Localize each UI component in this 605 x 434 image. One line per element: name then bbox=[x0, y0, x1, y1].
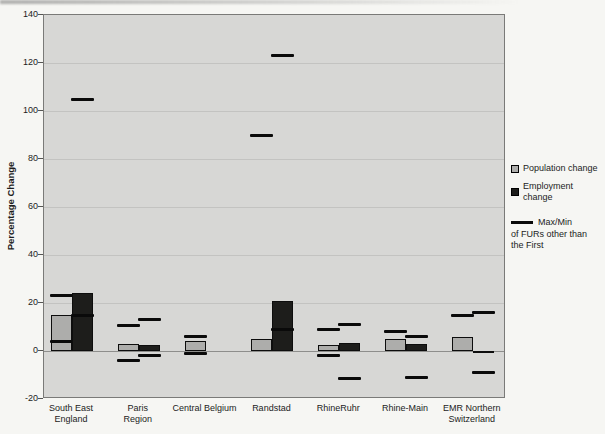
x-category-label: EMR Northern Switzerland bbox=[426, 403, 518, 425]
gridline bbox=[44, 255, 504, 256]
employment-min-marker bbox=[405, 376, 428, 379]
population-max-marker bbox=[250, 134, 273, 137]
population-bar bbox=[385, 339, 406, 351]
population-min-marker bbox=[184, 352, 207, 355]
population-max-marker bbox=[184, 335, 207, 338]
employment-min-marker bbox=[472, 371, 495, 374]
employment-bar bbox=[139, 345, 160, 351]
legend-label-population: Population change bbox=[523, 163, 598, 174]
y-tick-mark bbox=[38, 398, 43, 399]
legend-label-maxmin: Max/Min bbox=[538, 217, 572, 228]
y-tick-mark bbox=[38, 350, 43, 351]
y-tick-mark bbox=[38, 302, 43, 303]
y-tick-label: 60 bbox=[6, 201, 38, 211]
population-max-marker bbox=[117, 324, 140, 327]
population-max-marker bbox=[384, 330, 407, 333]
y-tick-label: 140 bbox=[6, 9, 38, 19]
y-tick-mark bbox=[38, 158, 43, 159]
legend-maxmin-desc-line1: of FURs other than bbox=[511, 229, 605, 240]
scan-artifact bbox=[0, 0, 520, 4]
employment-bar bbox=[72, 293, 93, 351]
employment-max-marker bbox=[138, 318, 161, 321]
employment-min-marker bbox=[271, 328, 294, 331]
y-tick-mark bbox=[38, 62, 43, 63]
y-tick-mark bbox=[38, 14, 43, 15]
legend-item-population: Population change bbox=[511, 163, 605, 174]
y-tick-mark bbox=[38, 254, 43, 255]
population-max-marker bbox=[50, 294, 73, 297]
employment-min-marker bbox=[138, 354, 161, 357]
legend-maxmin-desc-line2: the First bbox=[511, 240, 605, 251]
population-bar bbox=[452, 337, 473, 351]
population-bar bbox=[251, 339, 272, 351]
employment-max-marker bbox=[405, 335, 428, 338]
y-tick-label: 20 bbox=[6, 297, 38, 307]
population-swatch-icon bbox=[511, 165, 519, 173]
plot-area bbox=[43, 14, 505, 398]
y-tick-label: -20 bbox=[6, 393, 38, 403]
y-tick-label: 100 bbox=[6, 105, 38, 115]
chart-page: Percentage Change 140120100806040200-20S… bbox=[0, 0, 605, 434]
employment-bar bbox=[406, 344, 427, 351]
population-bar bbox=[318, 345, 339, 351]
gridline bbox=[44, 63, 504, 64]
max-min-line-icon bbox=[511, 221, 533, 224]
gridline bbox=[44, 207, 504, 208]
legend: Population change Employment change Max/… bbox=[511, 163, 605, 251]
y-tick-label: 120 bbox=[6, 57, 38, 67]
y-tick-mark bbox=[38, 206, 43, 207]
population-bar bbox=[185, 341, 206, 351]
y-tick-label: 80 bbox=[6, 153, 38, 163]
employment-bar bbox=[473, 351, 494, 353]
employment-min-marker bbox=[338, 377, 361, 380]
population-max-marker bbox=[451, 314, 474, 317]
employment-max-marker bbox=[71, 98, 94, 101]
employment-swatch-icon bbox=[511, 188, 519, 196]
employment-bar bbox=[272, 301, 293, 351]
population-bar bbox=[118, 344, 139, 351]
population-bar bbox=[51, 315, 72, 351]
employment-max-marker bbox=[338, 323, 361, 326]
population-min-marker bbox=[317, 354, 340, 357]
legend-label-employment: Employment change bbox=[523, 181, 605, 203]
gridline bbox=[44, 111, 504, 112]
y-tick-label: 40 bbox=[6, 249, 38, 259]
employment-max-marker bbox=[472, 311, 495, 314]
legend-item-maxmin: Max/Min of FURs other than the First bbox=[511, 217, 605, 251]
employment-min-marker bbox=[71, 314, 94, 317]
y-tick-label: 0 bbox=[6, 345, 38, 355]
y-tick-mark bbox=[38, 110, 43, 111]
population-min-marker bbox=[117, 359, 140, 362]
gridline bbox=[44, 159, 504, 160]
population-min-marker bbox=[50, 340, 73, 343]
employment-max-marker bbox=[271, 54, 294, 57]
population-max-marker bbox=[317, 328, 340, 331]
legend-item-employment: Employment change bbox=[511, 181, 605, 203]
employment-bar bbox=[339, 343, 360, 351]
